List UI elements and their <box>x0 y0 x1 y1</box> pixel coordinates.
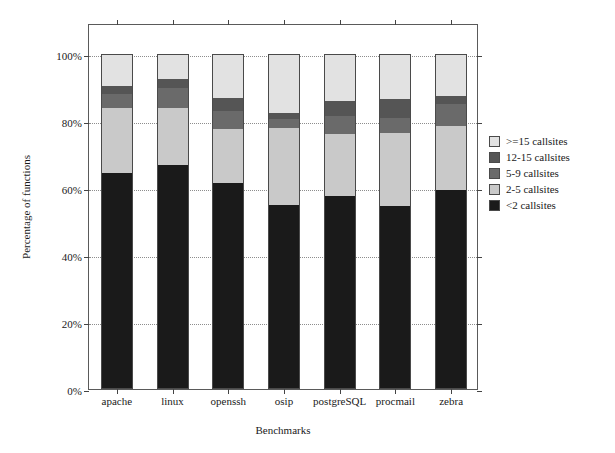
x-axis-tick-label: procmail <box>376 396 415 407</box>
x-axis-tick <box>228 389 229 394</box>
bar-segment-procmail-12-15-callsites <box>379 99 411 117</box>
bar-segment-openssh-2-5-callsites <box>212 129 244 183</box>
bar-segment-zebra--15-callsites <box>435 54 467 96</box>
legend-item: >=15 callsites <box>489 134 570 148</box>
legend-swatch-icon <box>489 184 500 195</box>
bar-segment-openssh--2-callsites <box>212 183 244 389</box>
legend-item: 12-15 callsites <box>489 150 570 164</box>
x-axis-tick <box>173 20 174 25</box>
x-axis-tick <box>395 20 396 25</box>
bar-segment-apache-5-9-callsites <box>101 94 133 107</box>
bar-segment-openssh-12-15-callsites <box>212 98 244 111</box>
y-axis-tick <box>477 56 482 57</box>
bar-segment-zebra-2-5-callsites <box>435 126 467 190</box>
x-axis-tick <box>228 20 229 25</box>
x-axis-title: Benchmarks <box>88 424 478 436</box>
legend-item-label: 12-15 callsites <box>506 152 570 163</box>
x-axis-tick <box>340 20 341 25</box>
y-axis-tick-label: 40% <box>62 252 82 263</box>
bar-segment-zebra-5-9-callsites <box>435 104 467 126</box>
x-axis-tick <box>117 20 118 25</box>
x-axis-tick <box>173 389 174 394</box>
y-axis-tick-label: 80% <box>62 118 82 129</box>
bar-linux <box>157 25 189 389</box>
y-axis-tick <box>477 190 482 191</box>
legend-item-label: <2 callsites <box>506 200 556 211</box>
bar-segment-postgreSQL-2-5-callsites <box>324 134 356 196</box>
bar-postgreSQL <box>324 25 356 389</box>
bar-zebra <box>435 25 467 389</box>
bar-segment-osip-5-9-callsites <box>268 119 300 127</box>
bar-segment-zebra-12-15-callsites <box>435 96 467 104</box>
plot-frame: 0%20%40%60%80%100%apachelinuxopensshosip… <box>88 24 478 390</box>
bar-segment-openssh--15-callsites <box>212 54 244 98</box>
y-axis-tick-label: 0% <box>67 386 82 397</box>
y-axis-tick-label: 60% <box>62 185 82 196</box>
bar-segment-apache-2-5-callsites <box>101 108 133 173</box>
bar-segment-procmail--15-callsites <box>379 54 411 99</box>
bar-segment-apache-12-15-callsites <box>101 86 133 94</box>
bar-segment-apache--15-callsites <box>101 54 133 86</box>
y-axis-tick <box>84 391 89 392</box>
bar-procmail <box>379 25 411 389</box>
x-axis-tick <box>340 389 341 394</box>
bar-segment-procmail--2-callsites <box>379 206 411 389</box>
chart-figure: 0%20%40%60%80%100%apachelinuxopensshosip… <box>0 0 615 453</box>
x-axis-tick-label: linux <box>161 396 184 407</box>
y-axis-tick <box>477 324 482 325</box>
y-axis-title: Percentage of functions <box>20 155 32 259</box>
y-axis-tick <box>477 257 482 258</box>
y-axis-tick <box>84 123 89 124</box>
x-axis-tick <box>284 389 285 394</box>
bar-segment-procmail-5-9-callsites <box>379 118 411 133</box>
bar-segment-osip--15-callsites <box>268 54 300 113</box>
legend-swatch-icon <box>489 200 500 211</box>
y-axis-tick-label: 20% <box>62 319 82 330</box>
bar-segment-linux-5-9-callsites <box>157 88 189 108</box>
legend-item: 5-9 callsites <box>489 166 570 180</box>
bar-segment-zebra--2-callsites <box>435 190 467 389</box>
plot-area <box>89 25 477 389</box>
bar-segment-postgreSQL--2-callsites <box>324 196 356 389</box>
bar-apache <box>101 25 133 389</box>
bar-segment-osip-2-5-callsites <box>268 128 300 205</box>
bar-segment-linux--2-callsites <box>157 165 189 389</box>
bar-segment-openssh-5-9-callsites <box>212 111 244 129</box>
legend-item-label: 5-9 callsites <box>506 168 559 179</box>
legend-swatch-icon <box>489 152 500 163</box>
bar-segment-postgreSQL-5-9-callsites <box>324 116 356 134</box>
y-axis-tick <box>84 324 89 325</box>
x-axis-tick-label: openssh <box>211 396 246 407</box>
bar-segment-linux-12-15-callsites <box>157 79 189 87</box>
y-axis-tick <box>84 56 89 57</box>
x-axis-tick <box>117 389 118 394</box>
x-axis-tick <box>451 389 452 394</box>
x-axis-tick-label: osip <box>275 396 293 407</box>
bar-segment-linux-2-5-callsites <box>157 108 189 165</box>
bar-segment-apache--2-callsites <box>101 173 133 389</box>
legend-swatch-icon <box>489 136 500 147</box>
x-axis-tick <box>395 389 396 394</box>
bar-segment-osip-12-15-callsites <box>268 113 300 120</box>
bar-segment-osip--2-callsites <box>268 205 300 389</box>
y-axis-tick <box>84 257 89 258</box>
bar-osip <box>268 25 300 389</box>
bar-segment-postgreSQL--15-callsites <box>324 54 356 101</box>
bar-segment-linux--15-callsites <box>157 54 189 79</box>
bar-segment-procmail-2-5-callsites <box>379 133 411 207</box>
x-axis-tick-label: zebra <box>439 396 463 407</box>
x-axis-tick <box>284 20 285 25</box>
x-axis-tick <box>451 20 452 25</box>
legend-item: 2-5 callsites <box>489 182 570 196</box>
chart-legend: >=15 callsites12-15 callsites5-9 callsit… <box>489 134 570 214</box>
legend-swatch-icon <box>489 168 500 179</box>
bar-openssh <box>212 25 244 389</box>
y-axis-tick <box>84 190 89 191</box>
x-axis-tick-label: postgreSQL <box>313 396 366 407</box>
y-axis-tick <box>477 123 482 124</box>
legend-item-label: 2-5 callsites <box>506 184 559 195</box>
legend-item: <2 callsites <box>489 198 570 212</box>
bar-segment-postgreSQL-12-15-callsites <box>324 101 356 116</box>
x-axis-tick-label: apache <box>102 396 133 407</box>
y-axis-tick <box>477 391 482 392</box>
